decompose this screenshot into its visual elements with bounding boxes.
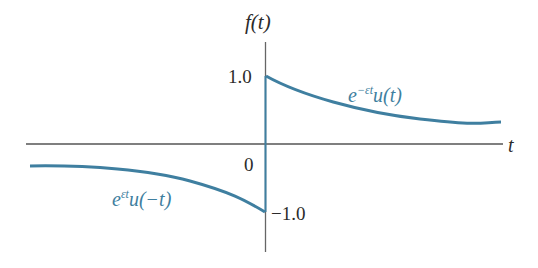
origin-label: 0 (244, 155, 254, 174)
negative-curve-label: eεtu(−t) (112, 188, 171, 209)
pos-base: e (348, 84, 357, 106)
exponential-signal-figure: f(t) t 1.0 0 −1.0 e−εtu(t) eεtu(−t) (0, 0, 538, 268)
positive-curve-label: e−εtu(t) (348, 84, 402, 105)
pos-exponent: −εt (357, 83, 373, 97)
y-axis-label: f(t) (245, 12, 271, 33)
neg-rest: u(−t) (129, 188, 171, 210)
plot-area (0, 0, 538, 268)
neg-exponent: εt (121, 187, 129, 201)
y-tick-1: 1.0 (228, 67, 252, 86)
pos-rest: u(t) (373, 84, 402, 106)
neg-base: e (112, 188, 121, 210)
x-axis-label: t (508, 135, 514, 155)
y-tick-neg-1: −1.0 (271, 204, 305, 223)
